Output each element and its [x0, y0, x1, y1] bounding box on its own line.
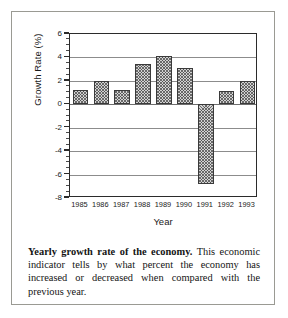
figure-card: Growth Rate (%) 6420-2-4-6-8 19851986198…: [11, 11, 275, 305]
x-tick-label-1988: 1988: [132, 200, 153, 209]
y-tick-label--6: -6: [55, 169, 62, 178]
x-tick-label-1986: 1986: [90, 200, 111, 209]
bar-chart: Growth Rate (%) 6420-2-4-6-8 19851986198…: [12, 12, 276, 234]
x-axis-title: Year: [69, 216, 257, 227]
x-tick-label-1991: 1991: [194, 200, 215, 209]
bar-1992[interactable]: [219, 91, 234, 104]
x-tick-label-1993: 1993: [236, 200, 257, 209]
y-tick-label-0: 0: [58, 99, 62, 108]
y-tick-label--8: -8: [55, 193, 62, 202]
caption-lead: Yearly growth rate of the economy.: [28, 246, 192, 257]
x-tick-label-1990: 1990: [173, 200, 194, 209]
x-axis-tick-labels: 198519861987198819891990199119921993: [69, 200, 257, 214]
bar-1990[interactable]: [177, 68, 192, 104]
bars-layer: [70, 34, 256, 196]
bar-1989[interactable]: [156, 56, 171, 104]
x-tick-label-1987: 1987: [111, 200, 132, 209]
bar-1986[interactable]: [94, 81, 109, 104]
figure-caption: Yearly growth rate of the economy. This …: [28, 245, 260, 298]
x-tick-label-1985: 1985: [69, 200, 90, 209]
y-tick-label-2: 2: [58, 75, 62, 84]
y-axis: 6420-2-4-6-8: [12, 12, 69, 198]
plot-area: [69, 33, 257, 197]
bar-1987[interactable]: [114, 90, 129, 104]
bar-1993[interactable]: [240, 81, 255, 104]
y-tick-label-4: 4: [58, 52, 62, 61]
bar-1988[interactable]: [135, 64, 150, 104]
x-tick-label-1989: 1989: [153, 200, 174, 209]
y-tick-label--4: -4: [55, 146, 62, 155]
bar-1991[interactable]: [198, 104, 213, 184]
x-tick-label-1992: 1992: [215, 200, 236, 209]
y-tick-label-6: 6: [58, 29, 62, 38]
y-tick-label--2: -2: [55, 122, 62, 131]
bar-1985[interactable]: [73, 90, 88, 104]
